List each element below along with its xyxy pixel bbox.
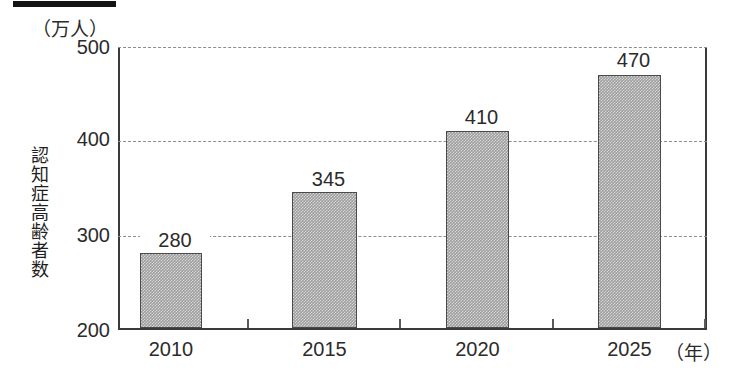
bar-value-label-2010: 280 [140,229,210,252]
y-tick-label-200: 200 [58,319,110,342]
y-axis-title: 認知症高齢者数 [27,112,51,312]
y-tick-label-500: 500 [58,36,110,59]
x-tick-label-2015: 2015 [292,338,357,361]
x-axis-unit-label: （年） [665,338,722,365]
y-tick-label-300: 300 [58,224,110,247]
x-axis-tick-2 [399,319,401,328]
bar-2015 [292,192,357,328]
x-tick-label-2010: 2010 [140,338,202,361]
black-rule-artifact [13,1,116,7]
chart-figure: （万人） 認知症高齢者数 500 400 300 200 280 345 410… [0,0,730,385]
plot-right-border [705,47,707,330]
x-tick-label-2025: 2025 [598,338,661,361]
plot-area [118,47,707,330]
x-axis-tick-3 [552,319,554,328]
gridline-500 [118,47,707,48]
bar-value-label-2025: 470 [598,49,669,72]
bar-2010 [140,253,202,328]
bar-2020 [446,131,509,328]
x-axis-tick-1 [247,319,249,328]
bar-value-label-2015: 345 [292,168,365,191]
x-axis-tick-4 [704,319,706,328]
y-axis-line [118,47,120,330]
y-tick-label-400: 400 [58,128,110,151]
x-tick-label-2020: 2020 [446,338,509,361]
bar-2025 [598,75,661,328]
x-axis-line [118,328,707,330]
bar-value-label-2020: 410 [446,106,517,129]
